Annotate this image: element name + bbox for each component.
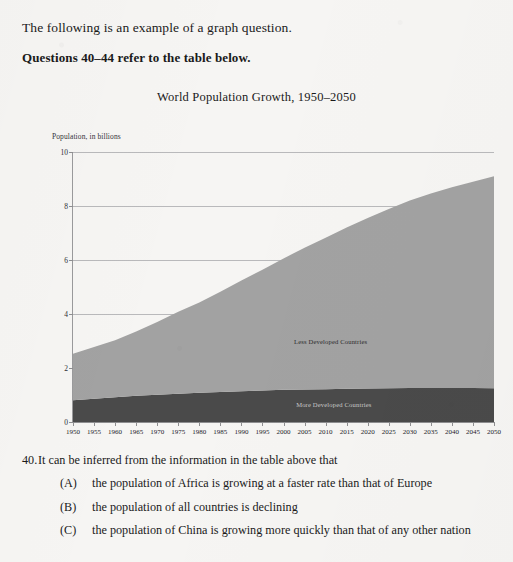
series-label-less-developed: Less Developed Countries <box>294 338 367 345</box>
x-tick-mark <box>389 422 390 426</box>
y-axis-label: Population, in billions <box>52 132 121 141</box>
population-growth-chart: Population, in billions 0246810 Less Dev… <box>0 118 513 438</box>
x-tick-mark <box>220 422 221 426</box>
x-tick-label: 2040 <box>445 428 459 436</box>
y-tick-label: 0 <box>64 418 68 427</box>
series-label-more-developed: More Developed Countries <box>296 401 371 408</box>
x-tick-label: 1990 <box>234 428 248 436</box>
x-tick-mark <box>410 422 411 426</box>
x-tick-mark <box>115 422 116 426</box>
x-tick-mark <box>326 422 327 426</box>
question-block: 40. It can be inferred from the informat… <box>0 452 513 539</box>
x-tick-label: 2035 <box>424 428 438 436</box>
question-number: 40. <box>0 452 38 469</box>
question-stem: It can be inferred from the information … <box>38 452 513 469</box>
x-tick-label: 1955 <box>87 428 101 436</box>
y-tick-label: 6 <box>64 256 68 265</box>
x-tick-mark <box>284 422 285 426</box>
x-tick-label: 2050 <box>487 428 501 436</box>
x-tick-label: 2020 <box>361 428 375 436</box>
x-tick-label: 1960 <box>108 428 122 436</box>
x-tick-mark <box>157 422 158 426</box>
x-tick-mark <box>431 422 432 426</box>
chart-plot-area: 0246810 Less Developed Countries More De… <box>73 152 494 422</box>
x-tick-label: 1970 <box>150 428 164 436</box>
x-tick-mark <box>262 422 263 426</box>
x-tick-label: 1980 <box>192 428 206 436</box>
x-tick-mark <box>305 422 306 426</box>
x-tick-label: 2030 <box>403 428 417 436</box>
answer-choice-text: the population of Africa is growing at a… <box>92 475 513 492</box>
x-tick-mark <box>199 422 200 426</box>
answer-choice-letter: (C) <box>0 522 92 539</box>
answer-choice-text: the population of all countries is decli… <box>92 499 513 516</box>
x-tick-label: 2005 <box>298 428 312 436</box>
answer-choice[interactable]: (C)the population of China is growing mo… <box>0 522 513 539</box>
answer-choice[interactable]: (A)the population of Africa is growing a… <box>0 475 513 492</box>
x-tick-mark <box>241 422 242 426</box>
x-tick-label: 2010 <box>319 428 333 436</box>
answer-choice-letter: (B) <box>0 499 92 516</box>
y-tick-label: 4 <box>64 310 68 319</box>
x-tick-label: 1985 <box>213 428 227 436</box>
x-tick-label: 1995 <box>255 428 269 436</box>
x-tick-label: 2000 <box>277 428 291 436</box>
y-tick-label: 2 <box>64 364 68 373</box>
x-tick-mark <box>368 422 369 426</box>
area-series <box>73 176 494 400</box>
x-tick-mark <box>473 422 474 426</box>
x-tick-mark <box>452 422 453 426</box>
y-tick-label: 10 <box>61 148 69 157</box>
intro-line: The following is an example of a graph q… <box>22 20 292 36</box>
x-tick-mark <box>347 422 348 426</box>
answer-choice-text: the population of China is growing more … <box>92 522 513 539</box>
question-stem-row: 40. It can be inferred from the informat… <box>0 452 513 469</box>
x-tick-label: 2025 <box>382 428 396 436</box>
questions-reference-heading: Questions 40–44 refer to the table below… <box>22 50 251 66</box>
answer-choice-letter: (A) <box>0 475 92 492</box>
chart-title: World Population Growth, 1950–2050 <box>0 90 513 105</box>
x-tick-mark <box>94 422 95 426</box>
x-tick-mark <box>136 422 137 426</box>
answer-choice[interactable]: (B)the population of all countries is de… <box>0 499 513 516</box>
x-tick-mark <box>494 422 495 426</box>
x-tick-mark <box>73 422 74 426</box>
answer-choices-list: (A)the population of Africa is growing a… <box>0 475 513 539</box>
x-tick-label: 1975 <box>171 428 185 436</box>
y-tick-label: 8 <box>64 202 68 211</box>
stacked-area-series <box>73 152 494 422</box>
x-tick-label: 1950 <box>66 428 80 436</box>
x-tick-label: 2015 <box>340 428 354 436</box>
x-tick-label: 1965 <box>129 428 143 436</box>
x-tick-label: 2045 <box>466 428 480 436</box>
x-tick-mark <box>178 422 179 426</box>
